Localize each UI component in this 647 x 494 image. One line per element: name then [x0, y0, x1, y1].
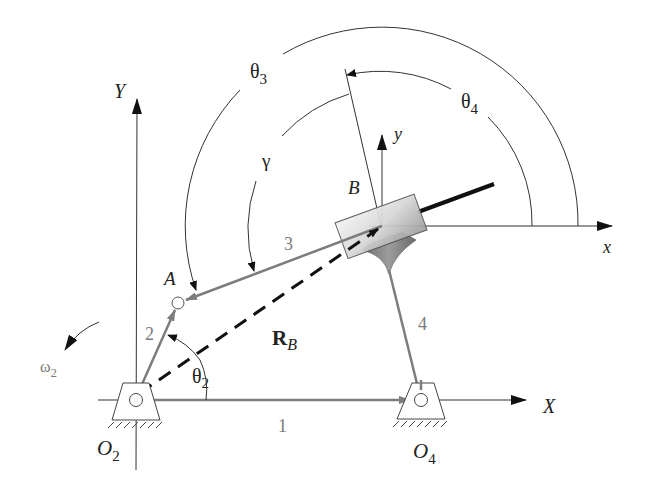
label-O2: O2: [97, 436, 120, 464]
label-link-2: 2: [145, 324, 154, 344]
label-point-B: B: [348, 177, 360, 198]
ground-pivot-O4: [393, 380, 447, 427]
omega2-arc: [65, 322, 99, 350]
gamma-arc-top: [282, 94, 349, 136]
slider-rail: [418, 184, 494, 212]
label-link-3: 3: [284, 234, 293, 254]
label-theta3: θ3: [250, 60, 267, 87]
pin-A: [172, 297, 184, 309]
label-point-A: A: [162, 268, 176, 289]
theta3-arc-left: [185, 90, 240, 290]
label-gamma: γ: [261, 150, 270, 171]
mechanism-diagram: Y X x y A B O2 O4 1 2 3 4 θ3 θ4 γ θ2 ω2 …: [0, 0, 647, 494]
label-O4: O4: [413, 439, 436, 467]
label-theta2: θ2: [192, 365, 209, 391]
pin-O2: [130, 394, 143, 407]
global-axes: [98, 99, 526, 470]
label-RB: RB: [272, 326, 297, 353]
label-omega2: ω2: [40, 358, 57, 380]
label-link-4: 4: [418, 314, 427, 334]
label-link-1: 1: [278, 416, 287, 436]
label-y-local: y: [392, 124, 402, 144]
link-4: [362, 232, 421, 400]
theta3-arc-right: [283, 27, 578, 226]
theta4-arc-left: [347, 71, 451, 89]
ground-pivot-O2: [108, 383, 162, 428]
label-Y-axis: Y: [114, 80, 127, 102]
label-X-axis: X: [542, 395, 556, 417]
label-theta4: θ4: [461, 90, 479, 117]
gamma-arc-bottom: [248, 181, 256, 271]
link4-rod: [389, 270, 421, 400]
link4-extension-line: [345, 69, 381, 226]
label-x-local: x: [602, 237, 611, 257]
theta4-arc-right: [488, 117, 532, 226]
pin-O4: [415, 394, 428, 407]
